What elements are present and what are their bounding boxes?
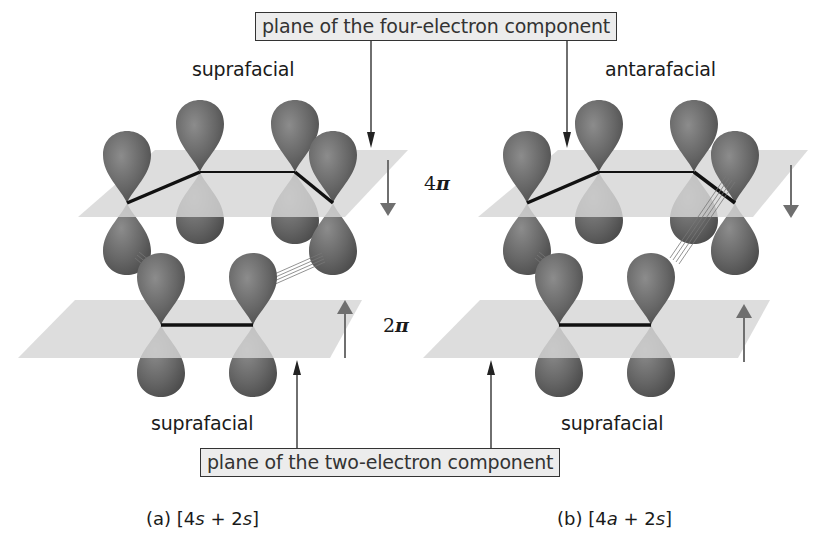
label-right-top-antarafacial: antarafacial — [605, 58, 716, 80]
pi-symbol: π — [436, 172, 450, 194]
label-right-bottom-suprafacial: suprafacial — [561, 412, 663, 434]
two-electron-plane — [423, 300, 770, 358]
pi-symbol: π — [395, 314, 409, 336]
two-electron-plane — [18, 300, 362, 358]
caption-a-part: s — [195, 508, 204, 529]
label-four-pi: 4π — [424, 172, 450, 194]
caption-a-part: s — [243, 508, 252, 529]
caption-a-part: (a) [4 — [146, 508, 195, 529]
caption-b: (b) [4a + 2s] — [557, 508, 672, 529]
caption-a-part: + 2 — [205, 508, 243, 529]
label-two-pi: 2π — [383, 314, 409, 336]
four-electron-plane-callout: plane of the four-electron component — [255, 12, 617, 41]
panel-b — [423, 100, 808, 397]
two-electron-plane-callout: plane of the two-electron component — [200, 448, 560, 477]
caption-a-part: ] — [252, 508, 259, 529]
label-left-top-suprafacial: suprafacial — [192, 58, 294, 80]
caption-b-part: + 2 — [618, 508, 656, 529]
four-pi-number: 4 — [424, 172, 436, 194]
two-pi-number: 2 — [383, 314, 395, 336]
caption-a: (a) [4s + 2s] — [146, 508, 259, 529]
caption-b-part: a — [607, 508, 618, 529]
caption-b-part: ] — [665, 508, 672, 529]
caption-b-part: s — [656, 508, 665, 529]
panel-a — [18, 100, 408, 397]
caption-b-part: (b) [4 — [557, 508, 607, 529]
label-left-bottom-suprafacial: suprafacial — [151, 412, 253, 434]
